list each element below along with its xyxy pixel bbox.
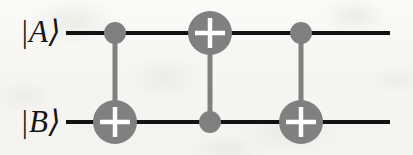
cnot-gate-2[interactable] <box>188 11 232 133</box>
cnot-gate-3[interactable] <box>279 22 323 144</box>
cnot-2-control-dot[interactable] <box>199 111 221 133</box>
qubit-label-a: |A⟩ <box>20 16 61 47</box>
qubit-label-b: |B⟩ <box>20 106 61 137</box>
circuit-diagram-canvas <box>0 0 413 155</box>
cnot-3-control-dot[interactable] <box>290 22 312 44</box>
cnot-1-control-dot[interactable] <box>104 22 126 44</box>
cnot-gate-1[interactable] <box>93 22 137 144</box>
quantum-circuit-figure: |A⟩ |B⟩ <box>0 0 413 155</box>
